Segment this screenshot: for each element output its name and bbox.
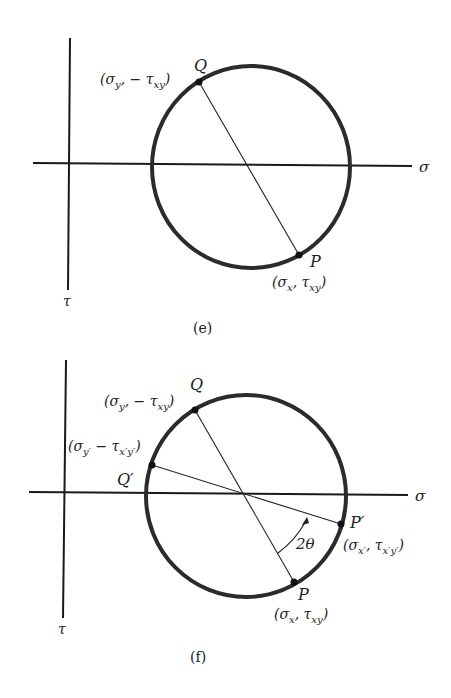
sigma-axis-label: σ [415,487,426,505]
point-p-prime-coords: (σx′, τx′y′) [343,537,404,556]
point-q-prime-coords: (σy′ − τx′y′) [68,438,141,457]
point-q-coords: (σy, − τxy) [100,71,170,90]
point-p-prime-label: P′ [349,513,365,532]
diameter-qp [199,82,299,255]
point-p-label: P [309,252,321,271]
point-p-coords: (σx, τxy) [272,274,326,293]
point-p-coords: (σx, τxy) [274,606,328,625]
diameter-qp [195,410,294,582]
point-q [196,79,203,86]
sigma-axis [33,163,412,166]
mohr-circle [146,395,346,597]
tau-axis [63,360,66,618]
point-p-prime [338,521,345,528]
sigma-axis-label: σ [419,158,430,176]
point-q-label: Q [190,375,203,394]
tau-axis-label: τ [63,293,71,309]
caption-f: (f) [190,649,206,665]
point-q-label: Q [194,56,207,75]
sigma-axis [29,492,408,495]
angle-label: 2θ [295,535,315,553]
mohr-circle-figures: σ τ Q (σy, − τxy) P (σx, τxy) (e) σ τ 2θ… [0,0,451,698]
angle-arrowhead-icon [302,517,309,525]
point-q [192,407,199,414]
point-p-label: P [297,585,309,604]
figure-e: σ τ Q (σy, − τxy) P (σx, τxy) (e) [33,38,430,336]
caption-e: (e) [193,320,212,336]
point-q-coords: (σy, − τxy) [104,393,174,412]
point-p [296,252,303,259]
point-q-prime-label: Q′ [117,470,134,489]
mohr-circle [152,66,350,268]
point-p [291,579,298,586]
point-q-prime [149,462,156,469]
figure-f: σ τ 2θ Q (σy, − τxy) Q′ (σy′ − τx′y′) P′… [29,360,426,665]
tau-axis-label: τ [58,621,66,637]
